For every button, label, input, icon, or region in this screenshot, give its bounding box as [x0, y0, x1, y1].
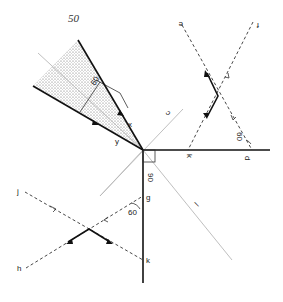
arrow-k-icon [104, 217, 108, 222]
page-number: 50 [68, 12, 80, 24]
label-c: c [163, 109, 172, 118]
label-y: y [115, 137, 119, 146]
angle-label-lower: 60 [128, 208, 137, 217]
angle-label-upper: 60 [235, 132, 244, 141]
guide-line-lower-left [100, 150, 143, 196]
right-angle-label: 90 [146, 173, 155, 182]
ray-diagram: 50 90 x y c l e f d k 60 60 g k j h 60 [0, 0, 283, 302]
label-j: j [16, 187, 19, 196]
reflected-path-lower [68, 229, 110, 242]
label-k-top: k [185, 154, 194, 159]
label-x: x [128, 120, 132, 129]
dashed-line-j [25, 192, 143, 260]
label-g: g [146, 193, 150, 202]
angle-arc-upper [246, 140, 251, 144]
label-h: h [17, 264, 21, 273]
label-f: f [256, 21, 259, 30]
label-k: k [146, 256, 151, 265]
label-d: d [243, 156, 252, 160]
guide-line-lower-right [143, 150, 232, 260]
label-e: e [178, 20, 183, 29]
dashed-line-f [188, 22, 253, 150]
label-l: l [193, 201, 201, 209]
arrow-left-icon [66, 239, 73, 244]
